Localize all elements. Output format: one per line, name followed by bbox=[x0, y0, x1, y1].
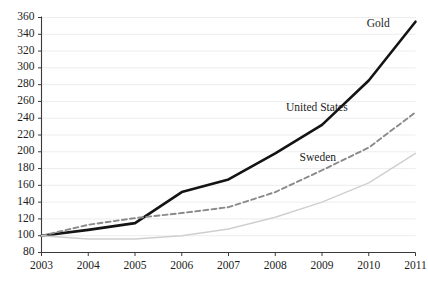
y-axis-tick-labels-group: 8010012014016018020022024026028030032034… bbox=[17, 10, 35, 257]
series-line-gold bbox=[42, 22, 416, 236]
y-axis-tick-label: 100 bbox=[17, 228, 35, 240]
y-axis-tick-label: 300 bbox=[17, 60, 35, 72]
y-axis-tick-label: 200 bbox=[17, 144, 35, 156]
series-line-sweden bbox=[42, 153, 416, 239]
line-chart: 8010012014016018020022024026028030032034… bbox=[0, 0, 428, 284]
series-label-united-states: United States bbox=[286, 101, 348, 113]
y-axis-tick-label: 240 bbox=[17, 111, 35, 123]
y-axis-tick-label: 220 bbox=[17, 128, 35, 140]
y-axis-tick-label: 140 bbox=[17, 195, 35, 207]
x-axis-tick-label: 2005 bbox=[124, 259, 147, 271]
y-axis-tick-label: 280 bbox=[17, 77, 35, 89]
y-axis-tick-label: 180 bbox=[17, 161, 35, 173]
x-axis-tick-label: 2006 bbox=[170, 259, 193, 271]
y-axis-tick-label: 80 bbox=[23, 245, 35, 257]
chart-plot-area: 8010012014016018020022024026028030032034… bbox=[0, 0, 428, 284]
y-axis-tick-label: 360 bbox=[17, 10, 35, 22]
x-axis-tick-label: 2010 bbox=[357, 259, 380, 271]
gridlines-group bbox=[42, 18, 416, 236]
y-axis-tick-label: 320 bbox=[17, 44, 35, 56]
series-label-gold: Gold bbox=[367, 17, 390, 29]
x-axis-tick-labels-group: 200320042005200620072008200920102011 bbox=[30, 259, 427, 271]
y-axis-tick-label: 340 bbox=[17, 27, 35, 39]
series-label-sweden: Sweden bbox=[300, 151, 337, 163]
x-axis-tick-label: 2003 bbox=[30, 259, 53, 271]
series-line-united-states bbox=[42, 112, 416, 235]
y-axis-tick-label: 160 bbox=[17, 178, 35, 190]
x-axis-tick-label: 2008 bbox=[264, 259, 287, 271]
x-axis-tick-label: 2011 bbox=[404, 259, 427, 271]
data-series-group bbox=[42, 22, 416, 239]
y-axis-tick-label: 260 bbox=[17, 94, 35, 106]
y-axis-tick-label: 120 bbox=[17, 212, 35, 224]
x-axis-tick-label: 2004 bbox=[77, 259, 100, 271]
x-axis-tick-label: 2007 bbox=[217, 259, 240, 271]
series-labels-group: GoldUnited StatesSweden bbox=[286, 17, 390, 163]
x-axis-tick-label: 2009 bbox=[311, 259, 334, 271]
